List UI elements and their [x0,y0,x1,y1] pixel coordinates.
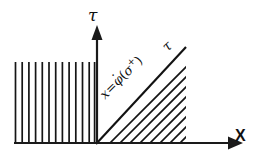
x-axis-label: X [235,128,246,144]
tau-axis-label: τ [88,7,97,24]
phase-diagram-figure: τ X τ x=·φ(σ+) [0,0,254,163]
diagonal-hatch-line [141,43,250,152]
diagonal-hatch-line [131,43,240,152]
tau-axis-arrowhead [92,25,103,40]
vertical-hatched-region [16,62,95,142]
diagonal-hatch-line [101,43,210,152]
